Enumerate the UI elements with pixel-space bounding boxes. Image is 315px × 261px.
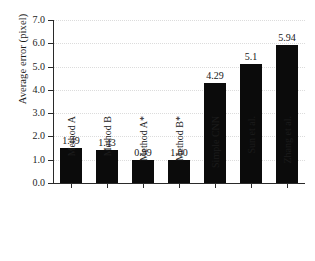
- y-axis-tick: [48, 183, 53, 184]
- bar-value-label: 5.94: [267, 32, 307, 43]
- x-axis-category-label: Sun et al.: [245, 116, 258, 190]
- gridline: [54, 90, 305, 92]
- y-axis-tick: [48, 160, 53, 161]
- y-axis-tick-label: 5.0: [0, 62, 45, 72]
- y-axis-tick-label: 1.0: [0, 155, 45, 165]
- y-axis-tick-label: 7.0: [0, 15, 45, 25]
- bar-value-label: 5.1: [231, 51, 271, 62]
- y-axis-tick: [48, 20, 53, 21]
- gridline: [54, 43, 305, 45]
- y-axis-tick: [48, 67, 53, 68]
- y-axis-tick: [48, 43, 53, 44]
- x-axis-category-label: Method A*: [137, 116, 150, 190]
- y-axis-tick: [48, 90, 53, 91]
- gridline: [54, 20, 305, 22]
- x-axis-category-label: Simple CNN: [209, 116, 222, 190]
- x-axis-category-label: Zhang et al.: [281, 116, 294, 190]
- bar-chart-figure: Average error (pixel) 0.01.02.03.04.05.0…: [0, 0, 315, 261]
- gridline: [54, 113, 305, 115]
- y-axis-tick-label: 6.0: [0, 38, 45, 48]
- gridline: [54, 67, 305, 69]
- y-axis-tick: [48, 113, 53, 114]
- y-axis-tick-label: 2.0: [0, 131, 45, 141]
- y-axis-tick-label: 4.0: [0, 85, 45, 95]
- x-axis-category-label: Method A: [65, 116, 78, 190]
- x-axis-category-label: Method B: [101, 116, 114, 190]
- y-axis-tick-label: 3.0: [0, 108, 45, 118]
- bar-value-label: 4.29: [195, 70, 235, 81]
- y-axis-tick-label: 0.0: [0, 178, 45, 188]
- x-axis-category-label: Method B*: [173, 116, 186, 190]
